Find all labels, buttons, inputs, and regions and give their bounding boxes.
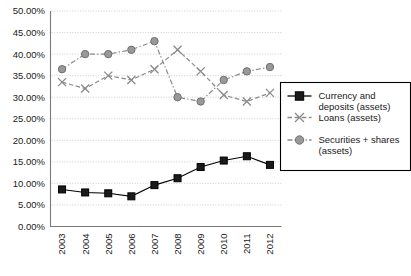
y-tick-label: 0.00% [18, 221, 45, 232]
data-point-circle [266, 63, 273, 70]
chart-canvas: 0.00%5.00%10.00%15.00%20.00%25.00%30.00%… [0, 0, 411, 276]
x-tick-label: 2003 [56, 234, 67, 255]
data-point-circle [81, 50, 88, 57]
data-point-square [82, 189, 89, 196]
legend-label: Loans (assets) [319, 112, 381, 123]
data-point-circle [220, 76, 227, 83]
data-point-square [174, 175, 181, 182]
y-tick-label: 10.00% [13, 178, 46, 189]
data-point-circle [295, 136, 303, 144]
x-tick-label: 2004 [80, 234, 91, 255]
data-point-circle [58, 65, 65, 72]
chart-legend: Currency anddeposits (assets)Loans (asse… [281, 83, 411, 171]
x-tick-label: 2005 [103, 234, 114, 255]
data-point-circle [128, 46, 135, 53]
y-tick-label: 30.00% [13, 92, 46, 103]
x-tick-label: 2010 [218, 234, 229, 255]
x-tick-label: 2011 [241, 234, 252, 254]
data-point-square [266, 161, 273, 168]
data-point-circle [174, 94, 181, 101]
y-tick-label: 5.00% [18, 199, 45, 210]
data-point-square [105, 190, 112, 197]
data-point-square [59, 186, 66, 193]
legend-label: Currency and [319, 90, 376, 101]
data-point-square [243, 153, 250, 160]
x-tick-label: 2012 [264, 234, 275, 255]
data-point-square [220, 157, 227, 164]
data-point-circle [197, 98, 204, 105]
legend-label-continued: deposits (assets) [319, 101, 391, 112]
y-tick-label: 45.00% [13, 27, 46, 38]
data-point-square [151, 182, 158, 189]
data-point-circle [105, 50, 112, 57]
data-point-circle [243, 68, 250, 75]
data-point-square [295, 92, 303, 100]
y-tick-label: 15.00% [13, 156, 46, 167]
y-tick-label: 40.00% [13, 49, 46, 60]
x-tick-label: 2009 [195, 234, 206, 255]
y-tick-label: 35.00% [13, 70, 46, 81]
legend-label: Securities + shares [319, 134, 400, 145]
legend-label-continued: (assets) [319, 145, 353, 156]
x-tick-label: 2007 [149, 234, 160, 255]
y-tick-label: 50.00% [13, 5, 46, 16]
data-point-square [128, 193, 135, 200]
x-tick-label: 2008 [172, 234, 183, 255]
data-point-square [197, 164, 204, 171]
data-point-circle [151, 37, 158, 44]
y-tick-label: 20.00% [13, 135, 46, 146]
line-chart: 0.00%5.00%10.00%15.00%20.00%25.00%30.00%… [0, 0, 411, 276]
y-tick-label: 25.00% [13, 113, 46, 124]
x-tick-label: 2006 [126, 234, 137, 255]
